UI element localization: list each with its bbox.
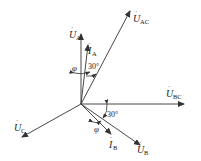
angle-label-phi-a: φ: [72, 63, 77, 73]
phasor-diagram: U A · I A · U AC · U BC · U C · U B ·: [0, 0, 201, 161]
svg-text:·: ·: [110, 134, 112, 142]
angle-label-30-a: 30°: [88, 62, 99, 71]
svg-text:B: B: [144, 149, 149, 156]
label-ua: U A ·: [69, 24, 81, 41]
svg-text:C: C: [21, 127, 25, 134]
label-uc: U C ·: [14, 117, 25, 134]
svg-text:·: ·: [71, 24, 73, 32]
label-uac: U AC ·: [133, 8, 149, 25]
svg-text:BC: BC: [173, 93, 182, 100]
phasor-uac: [81, 11, 130, 104]
angle-label-phi-b: φ: [94, 124, 99, 134]
svg-text:·: ·: [89, 40, 91, 48]
svg-text:·: ·: [16, 117, 18, 125]
svg-text:·: ·: [135, 8, 137, 16]
label-ia: I A ·: [87, 40, 97, 57]
svg-text:A: A: [76, 34, 81, 41]
label-ubc: U BC ·: [166, 83, 182, 100]
phasor-ia: [81, 45, 88, 104]
label-ib: I B ·: [108, 134, 118, 151]
svg-text:·: ·: [168, 83, 170, 91]
angle-label-30-b: 30°: [107, 110, 118, 119]
arc-30-a: [86, 74, 96, 76]
phasor-uc: [22, 104, 81, 137]
label-ub: U B ·: [137, 139, 149, 156]
svg-text:AC: AC: [140, 18, 149, 25]
svg-text:B: B: [113, 144, 118, 151]
svg-text:A: A: [92, 50, 97, 57]
svg-text:·: ·: [139, 139, 141, 147]
